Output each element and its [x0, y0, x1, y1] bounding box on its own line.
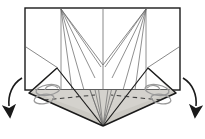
paper-sheet-outline	[25, 8, 180, 90]
origami-diagram-figure: Origami fold step diagram	[0, 0, 205, 139]
paper-sheet-group	[25, 8, 180, 90]
origami-diagram-canvas	[0, 0, 205, 139]
